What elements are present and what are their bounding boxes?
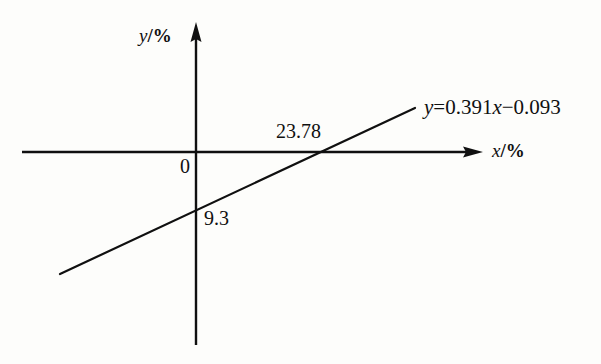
x-intercept-label: 23.78 xyxy=(276,121,321,141)
equation-constant: −0.093 xyxy=(502,95,561,119)
line-chart-figure: y/% x/% 0 23.78 9.3 y=0.391x−0.093 xyxy=(0,0,601,364)
y-axis-label: y/% xyxy=(139,26,172,45)
equation-lhs: y xyxy=(424,95,433,119)
equation-annotation: y=0.391x−0.093 xyxy=(424,97,561,118)
equation-variable: x xyxy=(492,95,501,119)
y-axis-arrowhead xyxy=(191,22,202,42)
y-axis-label-unit: /% xyxy=(147,25,171,46)
y-intercept-label: 9.3 xyxy=(204,208,229,228)
equation-coefficient: =0.391 xyxy=(433,95,492,119)
regression-line xyxy=(60,108,415,274)
origin-label: 0 xyxy=(180,156,190,176)
x-axis-arrowhead xyxy=(463,147,483,158)
x-axis-label-unit: /% xyxy=(500,140,524,161)
plot-area xyxy=(0,0,601,364)
x-axis-label: x/% xyxy=(492,141,525,160)
